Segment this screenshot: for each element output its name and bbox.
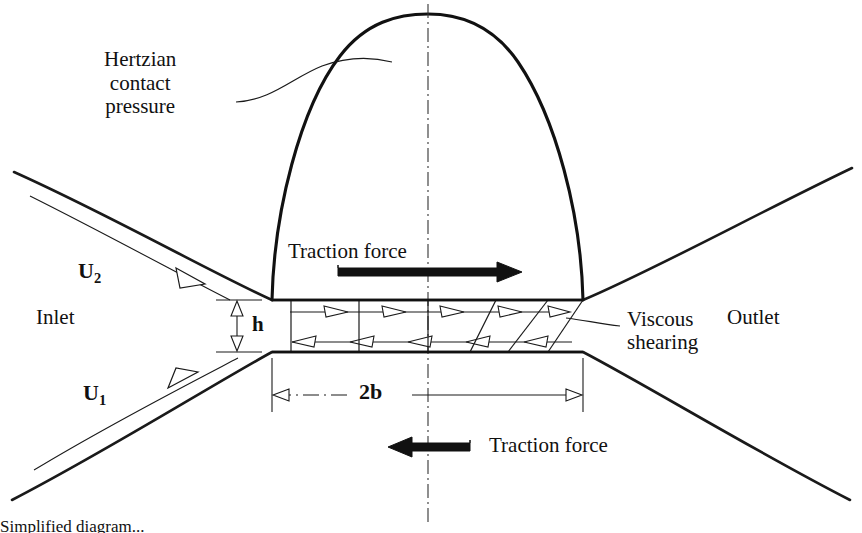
upper-velocity-line [30, 196, 230, 300]
traction-force-arrow-top [338, 262, 522, 282]
traction-force-arrow-bottom [388, 437, 470, 457]
lower-body-surface [12, 352, 850, 500]
viscous-shearing-label-line2: shearing [627, 331, 698, 354]
u1-arrowhead [168, 368, 198, 388]
hertzian-pressure-label-line3: pressure [104, 95, 176, 119]
viscous-shearing-label: Viscous shearing [627, 308, 698, 354]
figure-caption: Simplified diagram... [0, 517, 862, 533]
upper-velocity-label: U2 [78, 259, 101, 286]
inlet-label: Inlet [36, 306, 74, 330]
2b-arrowhead-right [566, 389, 582, 401]
viscous-shearing-label-line1: Viscous [627, 308, 698, 331]
hertzian-pressure-label-line1: Hertzian [104, 48, 176, 72]
hertzian-pressure-label: Hertzian contact pressure [104, 48, 176, 119]
viscous-leader-line [566, 318, 620, 326]
hertzian-pressure-label-line2: contact [104, 72, 176, 96]
outlet-label: Outlet [727, 306, 780, 330]
upper-velocity-subscript: 2 [94, 270, 101, 286]
lower-velocity-label: U1 [83, 381, 106, 408]
contact-width-label: 2b [359, 380, 382, 405]
lower-velocity-symbol: U [83, 380, 99, 405]
lower-velocity-line [34, 358, 238, 470]
upper-body-surface [14, 168, 852, 300]
h-arrowhead-up [231, 301, 243, 316]
upper-velocity-symbol: U [78, 258, 94, 283]
hertzian-leader-line [236, 59, 392, 102]
u2-arrowhead [176, 268, 205, 288]
2b-arrowhead-left [273, 389, 289, 401]
film-thickness-label: h [252, 313, 264, 337]
h-arrowhead-down [231, 336, 243, 351]
lower-velocity-subscript: 1 [99, 392, 106, 408]
traction-force-label-bottom: Traction force [489, 434, 608, 458]
ehd-contact-diagram: Hertzian contact pressure Traction force… [0, 0, 862, 533]
traction-force-label-top: Traction force [288, 240, 407, 264]
